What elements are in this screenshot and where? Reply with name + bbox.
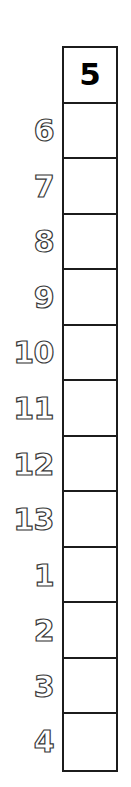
row-label-text: 7: [34, 172, 54, 202]
cell-value: 5: [79, 59, 101, 90]
row-label-13: 13: [0, 492, 55, 548]
row-label-8: 8: [0, 215, 55, 271]
row-label-text: 2: [34, 616, 54, 646]
row-label-text: 12: [13, 450, 54, 480]
grid-header-cell[interactable]: 5: [64, 48, 116, 104]
grid-cell[interactable]: [64, 492, 116, 548]
row-label-text: 9: [34, 283, 54, 313]
row-label-7: 7: [0, 159, 55, 215]
worksheet-canvas: 6789101112131234 5: [0, 0, 131, 787]
row-label-text: 6: [34, 116, 54, 146]
row-label-text: 8: [34, 227, 54, 257]
row-label-text: 3: [34, 672, 54, 702]
grid-cell[interactable]: [64, 548, 116, 604]
grid-cell[interactable]: [64, 659, 116, 715]
grid-cell[interactable]: [64, 437, 116, 493]
row-label-11: 11: [0, 381, 55, 437]
grid-cell[interactable]: [64, 215, 116, 271]
row-label-column: 6789101112131234: [0, 46, 57, 772]
row-label-text: 11: [13, 394, 54, 424]
grid-cell[interactable]: [64, 603, 116, 659]
row-label-1: 1: [0, 548, 55, 604]
grid-cell[interactable]: [64, 714, 116, 770]
grid-cell[interactable]: [64, 381, 116, 437]
grid-cell[interactable]: [64, 270, 116, 326]
row-label-3: 3: [0, 659, 55, 715]
grid-cell[interactable]: [64, 326, 116, 382]
row-label-text: 10: [13, 338, 54, 368]
grid-cell[interactable]: [64, 159, 116, 215]
row-label-text: 1: [34, 561, 54, 591]
row-label-2: 2: [0, 603, 55, 659]
row-label-6: 6: [0, 104, 55, 160]
grid-cell[interactable]: [64, 104, 116, 160]
row-label-9: 9: [0, 270, 55, 326]
row-label-text: 4: [34, 727, 54, 757]
row-label-10: 10: [0, 326, 55, 382]
row-label-text: 13: [13, 505, 54, 535]
answer-grid: 5: [62, 46, 118, 772]
row-label-4: 4: [0, 714, 55, 770]
row-label-12: 12: [0, 437, 55, 493]
